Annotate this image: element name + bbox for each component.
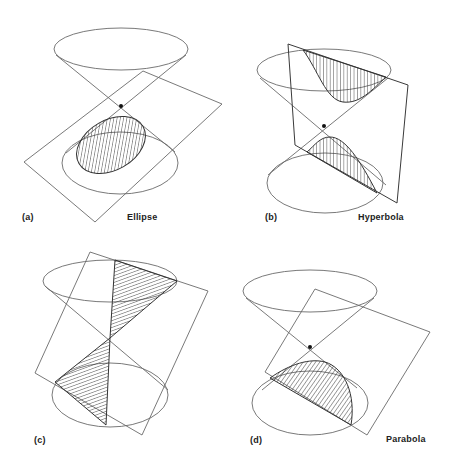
cone-top-ellipse <box>243 270 377 312</box>
panel-b-tag: (b) <box>265 212 277 222</box>
section-lower-triangle <box>55 338 110 425</box>
panel-a-caption: Ellipse <box>127 212 157 222</box>
ellipse-section <box>66 105 155 185</box>
panel-c-tag: (c) <box>34 435 46 445</box>
hyperbola-upper-branch <box>303 50 386 102</box>
hyperbola-lower-branch <box>307 137 377 193</box>
parabola-section <box>270 361 352 425</box>
panel-a-ellipse <box>24 28 222 222</box>
cone-apex <box>119 104 123 108</box>
panel-a-tag: (a) <box>22 212 34 222</box>
cone-apex <box>322 124 326 128</box>
panel-d-caption: Parabola <box>386 434 426 444</box>
panel-b-hyperbola <box>257 44 408 213</box>
conic-sections-figure <box>0 0 452 462</box>
panel-c-degenerate <box>35 252 208 435</box>
panel-d-parabola <box>243 270 430 435</box>
panel-d-tag: (d) <box>250 435 262 445</box>
cone-apex <box>308 345 312 349</box>
panel-b-caption: Hyperbola <box>358 212 404 222</box>
section-upper-triangle <box>110 260 177 338</box>
cone-top-ellipse <box>54 28 188 70</box>
